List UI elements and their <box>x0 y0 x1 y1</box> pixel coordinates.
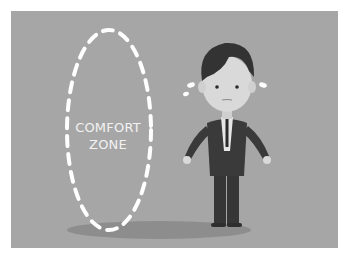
illustration-frame: COMFORT ZONE <box>11 11 338 248</box>
comfort-label: COMFORT <box>48 120 168 135</box>
businessman-figure <box>182 43 271 227</box>
zone-label: ZONE <box>48 137 168 152</box>
